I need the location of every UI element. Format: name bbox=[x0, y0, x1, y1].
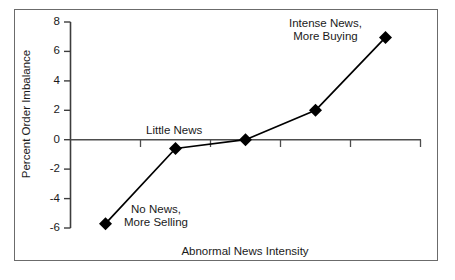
y-axis-ticks bbox=[64, 22, 71, 228]
annotation-line-1: No News, bbox=[124, 203, 188, 216]
y-axis-title: Percent Order Imbalance bbox=[20, 34, 32, 194]
annotation-line-1: Little News bbox=[146, 124, 202, 137]
annotation-no-news: No News, More Selling bbox=[124, 203, 188, 229]
plot-area bbox=[0, 0, 455, 280]
y-tick-label: -4 bbox=[34, 193, 60, 205]
y-tick-label: 6 bbox=[34, 45, 60, 57]
annotation-line-2: More Buying bbox=[289, 30, 362, 43]
annotation-little-news: Little News bbox=[146, 124, 202, 137]
y-tick-label: 8 bbox=[34, 16, 60, 28]
x-axis-title: Abnormal News Intensity bbox=[70, 245, 420, 257]
annotation-intense-news: Intense News, More Buying bbox=[289, 17, 362, 43]
data-markers bbox=[99, 31, 392, 230]
data-point-marker bbox=[239, 133, 252, 146]
x-axis-ticks bbox=[141, 140, 421, 147]
y-tick-label: 0 bbox=[34, 134, 60, 146]
chart-figure: 8 6 4 2 0 -2 -4 -6 Percent Order Imbalan… bbox=[0, 0, 455, 280]
annotation-line-1: Intense News, bbox=[289, 17, 362, 30]
y-tick-label: -2 bbox=[34, 163, 60, 175]
y-tick-label: 4 bbox=[34, 75, 60, 87]
y-tick-label: -6 bbox=[34, 222, 60, 234]
y-tick-label: 2 bbox=[34, 104, 60, 116]
annotation-line-2: More Selling bbox=[124, 216, 188, 229]
